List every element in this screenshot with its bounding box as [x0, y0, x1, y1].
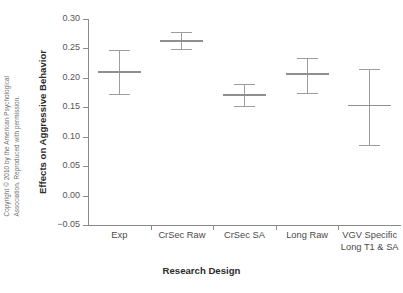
x-axis-category-label: VGV Specific Long T1 & SA: [338, 230, 401, 253]
errorbar-marker: [338, 14, 401, 226]
y-axis-tick-label: 0.00: [62, 190, 80, 200]
x-axis-category-label: CrSec SA: [213, 230, 276, 242]
y-axis-tick-label: 0.20: [62, 72, 80, 82]
errorbar-upper-cap: [171, 32, 192, 33]
errorbar-mean-marker: [223, 94, 266, 96]
y-axis-tick-label: 0.05: [62, 160, 80, 170]
errorbar-mean-marker: [160, 40, 203, 42]
errorbar-marker: [88, 14, 151, 226]
errorbar-lower-cap: [359, 145, 380, 146]
errorbar-upper-cap: [359, 69, 380, 70]
errorbar-mean-marker: [348, 105, 391, 107]
y-axis-tick-label: −0.05: [57, 219, 80, 229]
errorbar-lower-cap: [109, 94, 130, 95]
errorbar-marker: [151, 14, 214, 226]
errorbar-lower-cap: [171, 49, 192, 50]
y-axis-tick-label: 0.25: [62, 42, 80, 52]
x-axis-category-label: Long Raw: [276, 230, 339, 242]
x-axis-title: Research Design: [0, 265, 403, 276]
errorbar-lower-cap: [297, 93, 318, 94]
errorbar-upper-cap: [297, 58, 318, 59]
errorbar-marker: [213, 14, 276, 226]
errorbar-mean-marker: [98, 71, 141, 73]
errorbar-mean-marker: [286, 73, 329, 75]
errorbar-upper-cap: [109, 50, 130, 51]
errorbar-whisker-line: [369, 69, 370, 144]
y-axis-tick-label: 0.15: [62, 101, 80, 111]
y-axis-title: Effects on Aggressive Behavior: [37, 12, 51, 232]
errorbar-whisker-line: [307, 58, 308, 93]
x-axis-category-label: Exp: [88, 230, 151, 242]
copyright-note: Copyright © 2010 by the American Psychol…: [2, 2, 28, 217]
errorbar-marker: [276, 14, 339, 226]
y-axis-tick-label: 0.10: [62, 131, 80, 141]
errorbar-lower-cap: [234, 106, 255, 107]
errorbar-upper-cap: [234, 84, 255, 85]
plot-area: 0.300.250.200.150.100.050.00−0.05: [88, 14, 401, 226]
y-axis-tick-label: 0.30: [62, 13, 80, 23]
x-axis-category-label: CrSec Raw: [151, 230, 214, 242]
